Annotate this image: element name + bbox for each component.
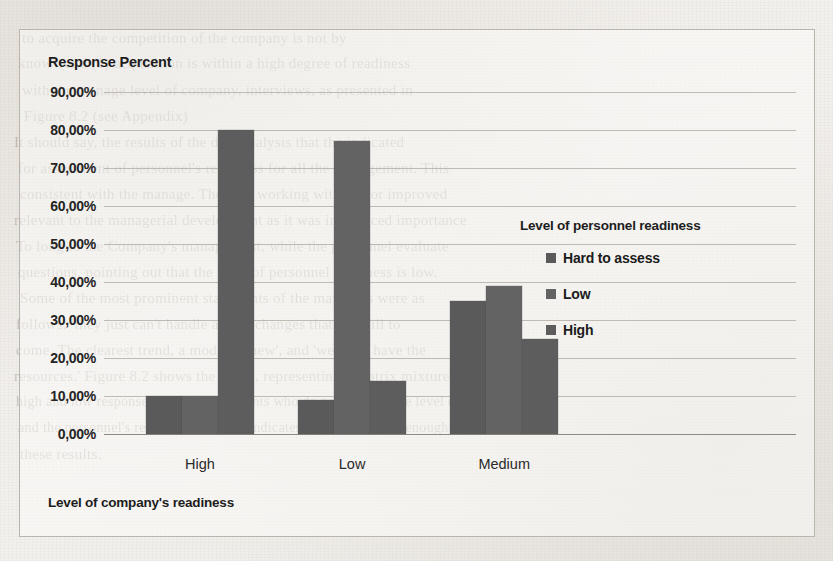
chart-legend: Level of personnel readiness Hard to ass… xyxy=(520,218,790,358)
bar[interactable] xyxy=(450,301,486,434)
bar[interactable] xyxy=(182,396,218,434)
x-axis-tick-label: High xyxy=(185,456,215,472)
scanned-page-background: to acquire the competition of the compan… xyxy=(0,0,833,561)
bar[interactable] xyxy=(218,130,254,434)
x-axis-tick-label: Low xyxy=(339,456,366,472)
y-axis-tick-label: 40,00% xyxy=(50,274,96,290)
y-axis-tick-label: 70,00% xyxy=(50,160,96,176)
legend-item[interactable]: Hard to assess xyxy=(546,250,790,266)
y-axis-tick-label: 60,00% xyxy=(50,198,96,214)
legend-items: Hard to assessLowHigh xyxy=(520,250,790,338)
bar[interactable] xyxy=(370,381,406,434)
y-axis-tick-label: 80,00% xyxy=(50,122,96,138)
x-axis-title: Level of company's readiness xyxy=(48,495,234,510)
legend-item-label: High xyxy=(563,322,593,338)
y-axis-tick-label: 10,00% xyxy=(50,388,96,404)
bar-group xyxy=(146,92,254,434)
legend-item[interactable]: High xyxy=(546,322,790,338)
y-axis-tick-label: 30,00% xyxy=(50,312,96,328)
bar[interactable] xyxy=(334,141,370,434)
chart-container: Response Percent 0,00%10,00%20,00%30,00%… xyxy=(19,29,815,537)
bar-group xyxy=(298,92,406,434)
legend-title: Level of personnel readiness xyxy=(520,218,790,233)
bar[interactable] xyxy=(146,396,182,434)
legend-item[interactable]: Low xyxy=(546,286,790,302)
y-axis-title: Response Percent xyxy=(48,54,171,70)
y-axis-tick-label: 20,00% xyxy=(50,350,96,366)
y-axis-tick-label: 50,00% xyxy=(50,236,96,252)
legend-swatch-icon xyxy=(546,325,556,335)
y-axis-tick-label: 0,00% xyxy=(58,426,96,442)
legend-item-label: Low xyxy=(563,286,590,302)
x-axis-line xyxy=(104,434,796,435)
y-axis-tick-label: 90,00% xyxy=(50,84,96,100)
x-axis-tick-label: Medium xyxy=(478,456,530,472)
legend-swatch-icon xyxy=(546,253,556,263)
bar[interactable] xyxy=(486,286,522,434)
legend-item-label: Hard to assess xyxy=(563,250,660,266)
bar[interactable] xyxy=(298,400,334,434)
legend-swatch-icon xyxy=(546,289,556,299)
